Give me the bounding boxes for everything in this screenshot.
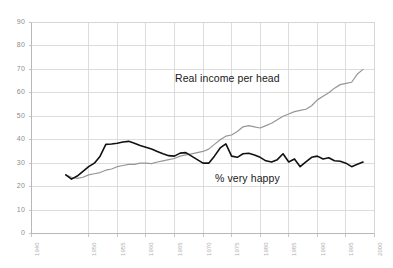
y-tick-label: 90	[5, 18, 25, 26]
y-tick-label: 0	[5, 229, 25, 237]
tick-marks	[29, 23, 375, 237]
y-tick-label: 10	[5, 206, 25, 214]
x-tick-label: 1970	[206, 242, 212, 256]
y-tick-label: 40	[5, 135, 25, 143]
y-tick-label: 50	[5, 112, 25, 120]
x-tick-label: 1990	[320, 242, 326, 256]
x-tick-label: 1950	[91, 242, 97, 256]
grid-lines	[32, 23, 375, 234]
x-tick-label: 1960	[148, 242, 154, 256]
x-tick-label: 1940	[34, 242, 40, 256]
series-line-real-income	[66, 69, 363, 178]
y-tick-label: 60	[5, 88, 25, 96]
y-tick-label: 80	[5, 41, 25, 49]
x-tick-label: 1975	[234, 242, 240, 256]
y-tick-label: 30	[5, 159, 25, 167]
x-tick-label: 1980	[263, 242, 269, 256]
series-lines	[66, 69, 363, 179]
y-tick-label: 20	[5, 182, 25, 190]
percent-very-happy-annotation: % very happy	[215, 172, 280, 184]
real-income-annotation: Real income per head	[175, 72, 280, 84]
x-tick-label: 1985	[291, 242, 297, 256]
x-tick-label: 2000	[377, 242, 383, 256]
line-chart-plot	[0, 0, 393, 268]
chart-container: 9080706050403020100 19401950195519601965…	[0, 0, 393, 268]
y-tick-label: 70	[5, 65, 25, 73]
x-tick-label: 1995	[348, 242, 354, 256]
x-tick-label: 1955	[120, 242, 126, 256]
x-tick-label: 1965	[177, 242, 183, 256]
